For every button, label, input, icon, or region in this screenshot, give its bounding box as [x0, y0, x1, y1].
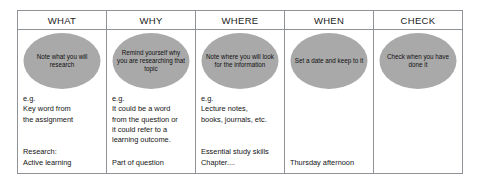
bubble-label-check: Check when you have done it [380, 53, 457, 69]
column-header-where: WHERE [196, 11, 285, 30]
cell-notes-where: e.g. Lecture notes, books, journals, etc… [201, 94, 281, 125]
cell-example-what: Research: Active learning [23, 147, 103, 168]
table-body-row: Note what you will research e.g. Key wor… [18, 30, 463, 174]
bubble-label-why: Remind yourself why you are researching … [113, 49, 190, 74]
cell-content-where: Note where you will look for the informa… [196, 30, 284, 173]
bubble-label-what: Note what you will research [24, 53, 101, 69]
bubble-when: Set a date and keep to it [291, 33, 368, 89]
table-cell-where: Note where you will look for the informa… [196, 30, 285, 174]
column-header-what: WHAT [18, 11, 107, 30]
table-cell-what: Note what you will research e.g. Key wor… [18, 30, 107, 174]
bubble-where: Note where you will look for the informa… [202, 33, 279, 89]
cell-example-where: Essential study skills Chapter.... [201, 147, 281, 168]
table-cell-check: Check when you have done it [374, 30, 463, 174]
bubble-label-where: Note where you will look for the informa… [202, 53, 279, 69]
research-planner-table: WHAT WHY WHERE WHEN CHECK Note what you … [17, 10, 463, 174]
column-header-check: CHECK [374, 11, 463, 30]
bubble-check: Check when you have done it [380, 33, 457, 89]
cell-content-what: Note what you will research e.g. Key wor… [18, 30, 106, 173]
bubble-what: Note what you will research [24, 33, 101, 89]
cell-example-when: Thursday afternoon [290, 158, 370, 168]
cell-notes-what: e.g. Key word from the assignment [23, 94, 103, 125]
cell-content-check: Check when you have done it [374, 30, 462, 173]
cell-notes-why: e.g. It could be a word from the questio… [112, 94, 192, 145]
cell-content-when: Set a date and keep to it Thursday after… [285, 30, 373, 173]
cell-example-why: Part of question [112, 158, 192, 168]
cell-content-why: Remind yourself why you are researching … [107, 30, 195, 173]
column-header-why: WHY [107, 11, 196, 30]
table-cell-when: Set a date and keep to it Thursday after… [285, 30, 374, 174]
bubble-label-when: Set a date and keep to it [291, 57, 367, 65]
table-header-row: WHAT WHY WHERE WHEN CHECK [18, 11, 463, 30]
table-cell-why: Remind yourself why you are researching … [107, 30, 196, 174]
column-header-when: WHEN [285, 11, 374, 30]
bubble-why: Remind yourself why you are researching … [113, 33, 190, 89]
